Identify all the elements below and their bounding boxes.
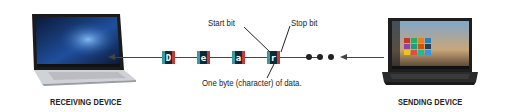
sending-laptop xyxy=(380,16,480,88)
sending-device-label: SENDING DEVICE xyxy=(398,97,462,107)
laptop-icon xyxy=(380,16,480,88)
